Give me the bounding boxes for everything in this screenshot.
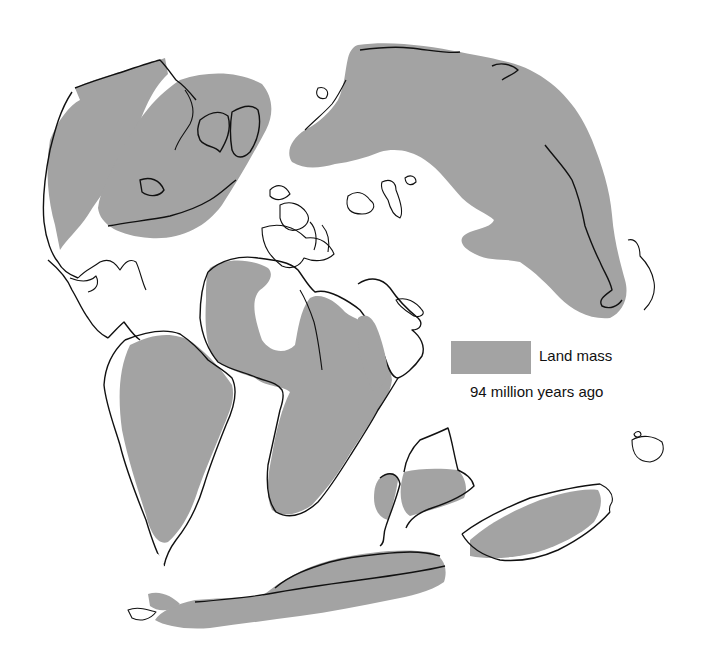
legend-label: Land mass [539,347,612,364]
madagascar-india [374,428,474,546]
australia [462,484,612,561]
south-america [104,331,235,569]
legend-caption: 94 million years ago [470,383,603,400]
legend-swatch-land [451,341,531,374]
north-america [43,58,271,290]
antarctica [128,550,446,628]
new-zealand [632,431,663,462]
eurasia [289,43,654,318]
paleogeographic-map [0,0,703,670]
central-america [48,260,140,340]
europe-islands [262,176,416,268]
